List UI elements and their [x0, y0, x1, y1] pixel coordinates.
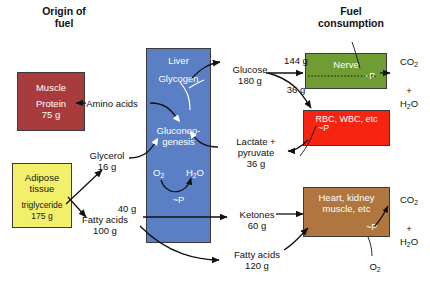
atp-label-rbc-wbc: ~P	[318, 123, 329, 133]
liver-label-h2o: H2O	[176, 167, 204, 181]
metabolite-label-glucose: Glucose 180 g	[222, 64, 278, 86]
liver-label-gluconeogenesis: Gluconeo- genesis	[147, 125, 210, 147]
organ-label-rbc-wbc: RBC, WBC, etc	[304, 114, 389, 125]
organ-box-rbc-wbc: RBC, WBC, etc	[303, 110, 390, 146]
product-label-heart-output: CO2 +H2O	[390, 193, 428, 250]
atp-label-heart-kidney-muscle: ~P	[366, 222, 377, 232]
metabolite-label-amino-acids: Amino acids	[76, 98, 148, 109]
organ-label-nerve: Nerve	[306, 59, 386, 70]
organ-label-muscle: Muscle	[18, 82, 84, 93]
metabolite-label-glycerol: Glycerol 16 g	[76, 150, 138, 172]
tick-heart-oxygen	[368, 237, 372, 256]
organ-detail-adipose-tissue: triglyceride 175 g	[13, 200, 71, 222]
organ-box-muscle: Muscle Protein 75 g	[17, 72, 85, 131]
organ-label-adipose-tissue: Adipose tissue	[13, 172, 71, 194]
liver-label-glycogen: Glycogen	[147, 73, 210, 84]
metabolite-label-glucose-to-nerve: 144 g	[279, 55, 313, 66]
metabolite-label-fatty-acids-portal: Fatty acids 100 g	[70, 214, 140, 236]
metabolic-fuel-diagram: Origin of fuel Fuel consumption Muscle P…	[0, 0, 430, 283]
liver-label-o2: O2	[153, 167, 177, 181]
metabolite-label-glucose-to-rbc: 36 g	[281, 84, 311, 95]
metabolite-label-lactate-pyruvate: Lactate + pyruvate 36 g	[220, 136, 292, 169]
product-label-heart-oxygen: O2	[363, 261, 387, 275]
organ-label-liver: Liver	[147, 55, 210, 66]
metabolite-label-fatty-acids-40g: 40 g	[112, 203, 142, 214]
metabolite-label-fatty-acids-peripheral: Fatty acids 120 g	[222, 249, 292, 271]
organ-detail-muscle: Protein 75 g	[18, 98, 84, 120]
organ-box-liver: Liver Glycogen Gluconeo- genesis O2 H2O …	[146, 48, 211, 243]
header-fuel-consumption: Fuel consumption	[292, 5, 410, 29]
product-label-nerve-output: CO2 +H2O	[390, 55, 428, 112]
liver-label-atp: ~P	[147, 194, 210, 205]
header-origin-of-fuel: Origin of fuel	[14, 5, 114, 29]
metabolite-label-ketones: Ketones 60 g	[230, 209, 284, 231]
organ-box-adipose-tissue: Adipose tissue triglyceride 175 g	[12, 163, 72, 228]
organ-label-heart-kidney-muscle: Heart, kidney muscle, etc	[304, 192, 389, 214]
atp-label-nerve: ~P	[364, 71, 375, 81]
